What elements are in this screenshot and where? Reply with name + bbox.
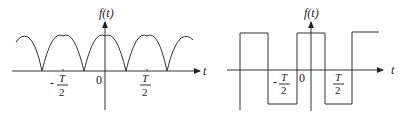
svg-text:2: 2: [281, 84, 287, 96]
svg-text:T: T: [335, 71, 342, 83]
right-y-axis-label: f(t): [304, 6, 319, 20]
left-tick-label-pos-T-over-2: T 2: [140, 72, 151, 98]
svg-text:T: T: [59, 72, 66, 84]
svg-text:-: -: [273, 75, 277, 89]
right-tick-label-neg-T-over-2: - T 2: [273, 71, 290, 96]
svg-text:2: 2: [59, 86, 65, 98]
right-tick-label-pos-T-over-2: T 2: [333, 71, 344, 96]
left-x-axis-label: t: [203, 64, 207, 78]
left-y-axis-label: f(t): [99, 6, 114, 20]
left-origin-label: 0: [96, 73, 102, 87]
right-square-wave: [240, 32, 379, 110]
left-figure: f(t) t 0 - T 2 T 2: [12, 6, 207, 110]
svg-text:T: T: [142, 72, 149, 84]
svg-text:-: -: [50, 76, 54, 90]
right-figure: f(t) t 0 - T 2 T 2: [227, 6, 395, 111]
right-origin-label: 0: [299, 71, 305, 85]
left-tick-label-neg-T-over-2: - T 2: [50, 72, 68, 98]
right-x-axis-label: t: [391, 63, 395, 77]
waveform-diagrams: f(t) t 0 - T 2 T 2 f(t) t 0: [0, 0, 402, 115]
svg-text:2: 2: [335, 84, 341, 96]
svg-text:T: T: [281, 71, 288, 83]
svg-text:2: 2: [142, 86, 148, 98]
